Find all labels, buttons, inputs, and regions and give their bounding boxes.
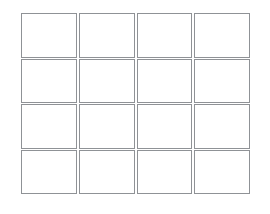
grid-cell[interactable] (21, 104, 77, 149)
grid-cell-label (80, 105, 134, 148)
grid-cell[interactable] (79, 150, 135, 195)
grid-cell[interactable] (79, 13, 135, 58)
grid-cell-label (195, 14, 249, 57)
grid-cell-label (22, 105, 76, 148)
grid-cell[interactable] (137, 150, 193, 195)
grid-cell[interactable] (194, 150, 250, 195)
grid-cell[interactable] (21, 13, 77, 58)
grid-cell-label (22, 14, 76, 57)
grid-cell-label (22, 151, 76, 194)
grid-cell[interactable] (79, 59, 135, 104)
grid-cell[interactable] (194, 104, 250, 149)
grid-cell[interactable] (194, 13, 250, 58)
grid-cell[interactable] (137, 104, 193, 149)
grid-cell-label (80, 14, 134, 57)
grid-cell-label (80, 60, 134, 103)
grid-cell[interactable] (79, 104, 135, 149)
grid-cell-label (80, 151, 134, 194)
grid-cell-label (138, 60, 192, 103)
grid-cell[interactable] (21, 59, 77, 104)
grid-cell-label (138, 14, 192, 57)
grid-cell[interactable] (137, 13, 193, 58)
grid-cell-label (195, 60, 249, 103)
empty-cell-grid (21, 13, 250, 194)
grid-cell-label (195, 151, 249, 194)
grid-cell[interactable] (194, 59, 250, 104)
grid-cell[interactable] (21, 150, 77, 195)
grid-cell-label (138, 151, 192, 194)
grid-cell-label (138, 105, 192, 148)
grid-cell[interactable] (137, 59, 193, 104)
page-root (0, 0, 270, 214)
grid-cell-label (195, 105, 249, 148)
grid-cell-label (22, 60, 76, 103)
